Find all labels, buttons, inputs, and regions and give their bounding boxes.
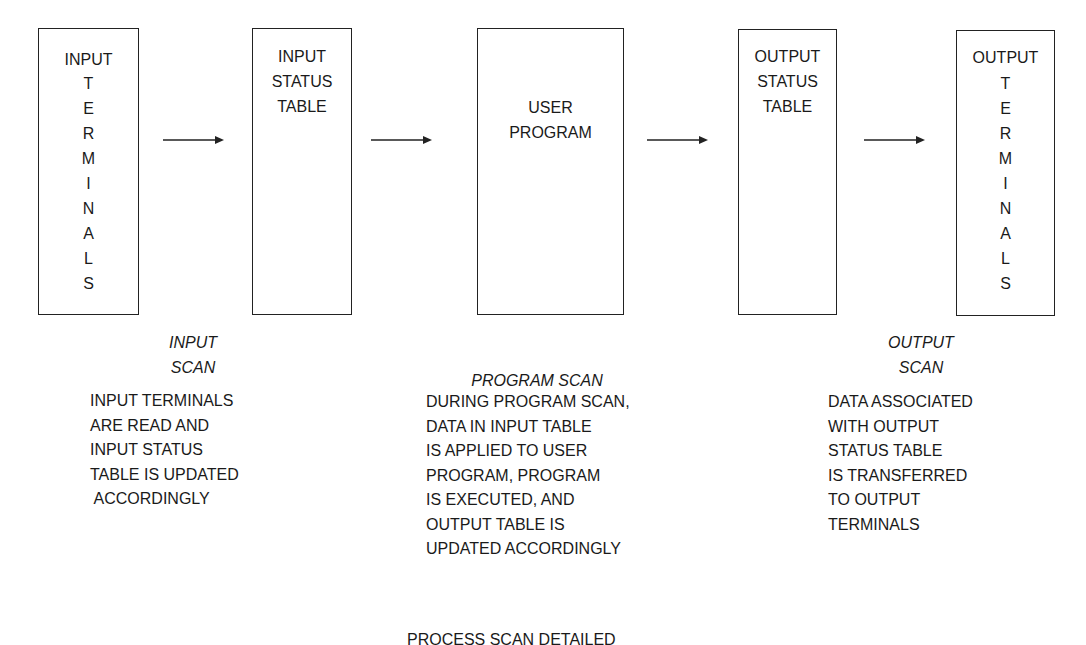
desc-line: INPUT STATUS xyxy=(90,438,239,463)
letter: S xyxy=(39,271,138,296)
letter: L xyxy=(39,246,138,271)
input-scan-title: INPUT SCAN xyxy=(138,330,248,380)
desc-line: STATUS TABLE xyxy=(828,439,973,464)
title-line: SCAN xyxy=(138,355,248,380)
letter: T xyxy=(39,71,138,96)
figure-caption: PROCESS SCAN DETAILED xyxy=(407,630,616,645)
input-status-table-box: INPUT STATUS TABLE xyxy=(252,28,352,315)
desc-line: INPUT TERMINALS xyxy=(90,389,239,414)
output-status-line-2: STATUS xyxy=(739,69,836,94)
letter: R xyxy=(957,121,1054,146)
desc-line: UPDATED ACCORDINGLY xyxy=(426,537,630,562)
input-terminals-vertical-label: T E R M I N A L S xyxy=(39,71,138,296)
desc-line: IS TRANSFERRED xyxy=(828,464,973,489)
input-status-line-3: TABLE xyxy=(253,94,351,119)
letter: M xyxy=(39,146,138,171)
input-status-line-1: INPUT xyxy=(253,44,351,69)
user-program-line-2: PROGRAM xyxy=(478,120,623,145)
input-scan-description: INPUT TERMINALS ARE READ AND INPUT STATU… xyxy=(90,389,239,512)
input-status-line-2: STATUS xyxy=(253,69,351,94)
program-scan-description: DURING PROGRAM SCAN, DATA IN INPUT TABLE… xyxy=(426,390,630,562)
arrow-right-icon xyxy=(864,134,926,146)
letter: A xyxy=(39,221,138,246)
desc-line: ACCORDINGLY xyxy=(90,487,239,512)
arrow-right-icon xyxy=(647,134,709,146)
arrow-right-icon xyxy=(371,134,433,146)
title-line: SCAN xyxy=(866,355,976,380)
output-scan-title: OUTPUT SCAN xyxy=(866,330,976,380)
desc-line: WITH OUTPUT xyxy=(828,415,973,440)
title-line: INPUT xyxy=(138,330,248,355)
letter: I xyxy=(39,171,138,196)
letter: R xyxy=(39,121,138,146)
letter: E xyxy=(957,96,1054,121)
letter: T xyxy=(957,71,1054,96)
input-terminals-box: INPUT T E R M I N A L S xyxy=(38,28,139,315)
letter: E xyxy=(39,96,138,121)
desc-line: TO OUTPUT xyxy=(828,488,973,513)
desc-line: DATA IN INPUT TABLE xyxy=(426,415,630,440)
output-status-line-1: OUTPUT xyxy=(739,44,836,69)
desc-line: OUTPUT TABLE IS xyxy=(426,513,630,538)
user-program-box: USER PROGRAM xyxy=(477,28,624,315)
input-terminals-top-label: INPUT xyxy=(39,47,138,72)
desc-line: IS EXECUTED, AND xyxy=(426,488,630,513)
letter: S xyxy=(957,271,1054,296)
title-line: OUTPUT xyxy=(866,330,976,355)
user-program-line-1: USER xyxy=(478,95,623,120)
letter: N xyxy=(957,196,1054,221)
letter: M xyxy=(957,146,1054,171)
letter: A xyxy=(957,221,1054,246)
desc-line: IS APPLIED TO USER xyxy=(426,439,630,464)
desc-line: TERMINALS xyxy=(828,513,973,538)
arrow-right-icon xyxy=(163,134,225,146)
output-scan-description: DATA ASSOCIATED WITH OUTPUT STATUS TABLE… xyxy=(828,390,973,537)
desc-line: PROGRAM, PROGRAM xyxy=(426,464,630,489)
output-status-line-3: TABLE xyxy=(739,94,836,119)
desc-line: TABLE IS UPDATED xyxy=(90,463,239,488)
desc-line: DATA ASSOCIATED xyxy=(828,390,973,415)
output-terminals-vertical-label: T E R M I N A L S xyxy=(957,71,1054,296)
letter: N xyxy=(39,196,138,221)
output-terminals-top-label: OUTPUT xyxy=(957,45,1054,70)
output-terminals-box: OUTPUT T E R M I N A L S xyxy=(956,30,1055,316)
desc-line: ARE READ AND xyxy=(90,414,239,439)
output-status-table-box: OUTPUT STATUS TABLE xyxy=(738,29,837,315)
letter: I xyxy=(957,171,1054,196)
letter: L xyxy=(957,246,1054,271)
desc-line: DURING PROGRAM SCAN, xyxy=(426,390,630,415)
